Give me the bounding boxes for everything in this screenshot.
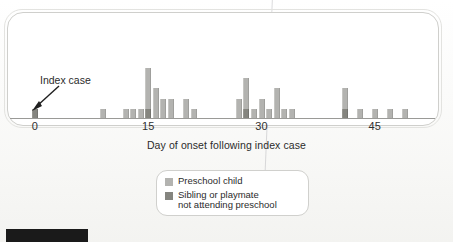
x-axis-title: Day of onset following index case	[0, 139, 453, 151]
bar-segment-preschool-child	[243, 78, 249, 109]
bar-day-28	[243, 78, 249, 119]
bar-day-15	[145, 68, 151, 119]
legend-item-sibling-or-playmate: Sibling or playmate not attending presch…	[165, 190, 300, 211]
legend-label-sibling-or-playmate: Sibling or playmate not attending presch…	[178, 190, 277, 211]
figure-page: 0153045 Day of onset following index cas…	[0, 0, 453, 242]
x-tick-label-15: 15	[142, 120, 155, 132]
x-tick-label-0: 0	[32, 120, 38, 132]
bar-segment-preschool-child	[168, 99, 174, 119]
page-edge-artifact	[6, 229, 88, 242]
bar-day-30	[259, 99, 265, 119]
bar-segment-preschool-child	[342, 88, 348, 108]
bar-day-27	[236, 99, 242, 119]
bar-day-20	[183, 99, 189, 119]
bar-segment-preschool-child	[153, 88, 159, 119]
legend-item-preschool-child: Preschool child	[165, 176, 300, 187]
bar-segment-preschool-child	[274, 88, 280, 119]
bar-day-16	[153, 88, 159, 119]
bar-segment-preschool-child	[160, 99, 166, 119]
x-tick-label-45: 45	[369, 120, 382, 132]
bar-segment-preschool-child	[145, 68, 151, 109]
bars-layer	[0, 0, 453, 119]
x-tick-label-30: 30	[255, 120, 268, 132]
index-case-arrow-icon	[28, 84, 62, 112]
bar-segment-preschool-child	[183, 99, 189, 119]
bar-day-32	[274, 88, 280, 119]
bar-segment-preschool-child	[236, 99, 242, 119]
legend-swatch-preschool-child-icon	[165, 178, 173, 186]
legend-label-preschool-child: Preschool child	[178, 176, 242, 187]
legend-box: Preschool child Sibling or playmate not …	[156, 170, 309, 216]
bar-day-18	[168, 99, 174, 119]
bar-day-17	[160, 99, 166, 119]
x-axis-line	[10, 118, 435, 119]
bar-segment-preschool-child	[259, 99, 265, 119]
legend-swatch-sibling-or-playmate-icon	[165, 192, 173, 200]
bar-day-41	[342, 88, 348, 119]
